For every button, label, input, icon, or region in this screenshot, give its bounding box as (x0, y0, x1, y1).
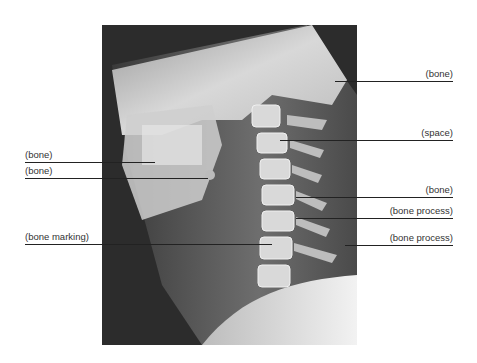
leader-line-right-2 (280, 140, 453, 141)
label-bone-left-1: (bone) (25, 150, 52, 160)
label-bone-process-2: (bone process) (390, 233, 453, 243)
leader-line-right-1 (335, 81, 453, 82)
label-bone-left-2: (bone) (25, 166, 52, 176)
label-bone-right-2: (bone) (426, 185, 453, 195)
xray-image (102, 25, 357, 345)
leader-line-left-3 (25, 244, 272, 245)
label-bone-process-1: (bone process) (390, 206, 453, 216)
label-bone-marking: (bone marking) (25, 232, 89, 242)
xray-graphic (102, 25, 357, 345)
label-bone-right-1: (bone) (426, 69, 453, 79)
leader-line-right-3 (296, 197, 453, 198)
leader-line-left-2 (25, 178, 208, 179)
leader-line-left-1 (25, 162, 155, 163)
label-space: (space) (421, 128, 453, 138)
leader-line-right-4 (296, 218, 453, 219)
leader-line-right-5 (345, 245, 453, 246)
